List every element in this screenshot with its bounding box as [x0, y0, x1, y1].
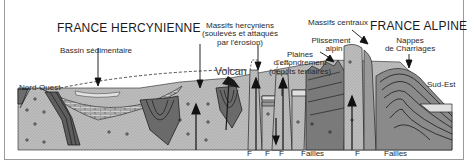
label-plaines-effondrement: Plaines d'effondrement (dépôts tertiaire… [262, 51, 338, 76]
fault-label-failles-2: Failles [384, 150, 407, 158]
label-plissement-alpin: Plissement alpin [308, 37, 354, 54]
label-sud-est: Sud-Est [427, 81, 455, 89]
fault-label-1: F [247, 150, 252, 158]
label-volcan: Volcan [215, 66, 247, 77]
fault-label-3: F [279, 150, 284, 158]
label-nord-ouest: Nord-Ouest [19, 84, 60, 92]
label-bassin-sedimentaire: Bassin sédimentaire [60, 47, 132, 55]
label-nappes-charriages: Nappes de Charriages [382, 37, 438, 54]
label-massifs-hercyniens-line3: par l'érosion) [190, 39, 290, 47]
label-nappes-line2: de Charriages [382, 45, 438, 53]
title-france-hercynienne: FRANCE HERCYNIENNE [57, 22, 201, 35]
fault-label-failles-1: Failles [301, 150, 324, 158]
label-plissement-line2: alpin [308, 45, 354, 53]
label-massifs-centraux: Massifs centraux [308, 19, 368, 27]
label-massifs-hercyniens: Massifs hercyniens (soulevés et attaqués… [190, 22, 290, 47]
fault-label-2: F [265, 150, 270, 158]
title-france-alpine: FRANCE ALPINE [370, 20, 467, 33]
fault-label-4: F [355, 150, 360, 158]
label-plaines-line3: (dépôts tertiaires) [262, 68, 338, 76]
